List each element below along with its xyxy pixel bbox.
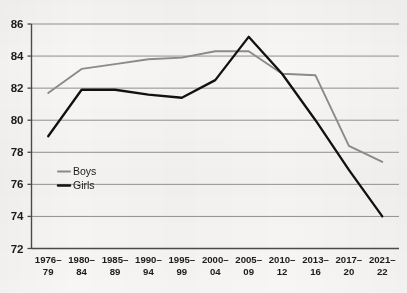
legend-label-girls: Girls <box>73 179 95 191</box>
series-line-girls <box>48 37 382 217</box>
x-tick-label: 16 <box>310 266 321 277</box>
x-tick-label: 2000– <box>202 254 229 265</box>
x-tick-label: 89 <box>110 266 121 277</box>
x-tick-label: 2010– <box>269 254 296 265</box>
line-chart: 7274767880828486 1976–791980–841985–8919… <box>0 0 407 293</box>
x-tick-label: 2005– <box>235 254 262 265</box>
chart-legend: Boys Girls <box>58 165 96 191</box>
x-tick-label: 79 <box>43 266 54 277</box>
y-tick-label: 86 <box>11 18 24 30</box>
x-tick-label: 1976– <box>35 254 62 265</box>
data-series <box>48 37 382 217</box>
x-tick-label: 09 <box>243 266 254 277</box>
y-tick-label: 82 <box>11 82 24 94</box>
y-tick-label: 80 <box>11 114 24 126</box>
y-tick-label: 76 <box>11 178 24 190</box>
legend-label-boys: Boys <box>73 165 96 177</box>
x-tick-label: 1990– <box>135 254 162 265</box>
x-axis-labels: 1976–791980–841985–891990–941995–992000–… <box>35 254 396 277</box>
x-tick-label: 12 <box>277 266 288 277</box>
y-tick-label: 84 <box>11 50 24 62</box>
x-tick-label: 2017– <box>336 254 363 265</box>
x-tick-label: 2021– <box>369 254 396 265</box>
x-tick-label: 84 <box>76 266 87 277</box>
x-tick-label: 1995– <box>168 254 195 265</box>
x-tick-label: 22 <box>377 266 388 277</box>
x-tick-label: 99 <box>177 266 188 277</box>
x-tick-label: 94 <box>143 266 154 277</box>
x-tick-label: 1985– <box>102 254 129 265</box>
y-tick-label: 78 <box>11 146 24 158</box>
y-tick-label: 72 <box>11 243 24 255</box>
x-tick-label: 04 <box>210 266 221 277</box>
x-tick-label: 20 <box>344 266 355 277</box>
x-tick-label: 1980– <box>68 254 95 265</box>
y-axis-labels: 7274767880828486 <box>11 18 24 255</box>
x-tick-label: 2013– <box>302 254 329 265</box>
y-tick-label: 74 <box>11 210 24 222</box>
chart-container: 7274767880828486 1976–791980–841985–8919… <box>0 0 407 293</box>
